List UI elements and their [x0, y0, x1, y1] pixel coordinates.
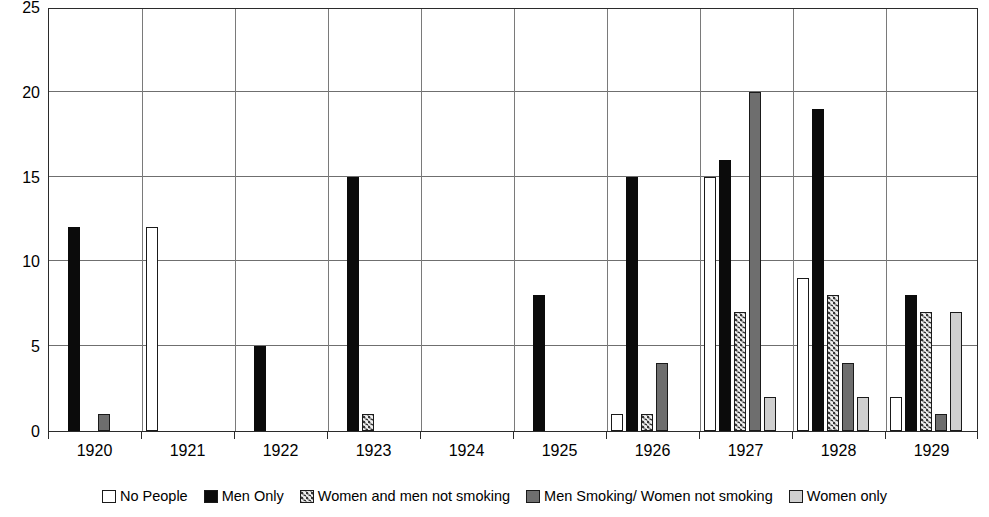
y-tick-label: 10	[2, 254, 40, 270]
x-tick	[699, 432, 700, 439]
bar	[749, 92, 761, 431]
y-tick-label: 5	[2, 339, 40, 355]
bar-group-1926	[611, 9, 704, 431]
bar-group-1924	[425, 9, 518, 431]
bar	[704, 177, 716, 431]
legend-label: No People	[120, 489, 188, 504]
legend-item[interactable]: Men Smoking/ Women not smoking	[526, 489, 773, 504]
x-tick	[420, 432, 421, 439]
legend-item[interactable]: Women only	[789, 489, 887, 504]
x-tick-label: 1926	[635, 441, 671, 461]
y-tick-label: 25	[2, 0, 40, 16]
x-tick-label: 1923	[356, 441, 392, 461]
x-tick-label: 1921	[170, 441, 206, 461]
x-tick	[513, 432, 514, 439]
x-tick-label: 1925	[542, 441, 578, 461]
bar	[719, 160, 731, 431]
bar	[812, 109, 824, 431]
bar	[146, 227, 158, 431]
y-axis: 0510152025	[0, 0, 40, 436]
x-tick	[885, 432, 886, 439]
bar	[935, 414, 947, 431]
y-tick-label: 0	[2, 424, 40, 440]
legend-item[interactable]: Women and men not smoking	[300, 489, 510, 504]
x-tick	[141, 432, 142, 439]
y-tick-label: 15	[2, 170, 40, 186]
bar	[98, 414, 110, 431]
x-tick-label: 1924	[449, 441, 485, 461]
legend-item[interactable]: No People	[102, 489, 188, 504]
bar	[347, 177, 359, 431]
bar	[950, 312, 962, 431]
x-tick-label: 1928	[821, 441, 857, 461]
x-tick	[327, 432, 328, 439]
bar	[827, 295, 839, 431]
bar	[842, 363, 854, 431]
bar-group-1929	[890, 9, 983, 431]
bar	[857, 397, 869, 431]
x-tick-label: 1920	[77, 441, 113, 461]
bar-group-1922	[239, 9, 332, 431]
legend-swatch-icon	[102, 490, 116, 503]
bar-group-1927	[704, 9, 797, 431]
bar	[890, 397, 902, 431]
bars-layer	[49, 9, 977, 431]
bar	[920, 312, 932, 431]
bar-group-1925	[518, 9, 611, 431]
plot-area	[48, 8, 978, 432]
bar-group-1921	[146, 9, 239, 431]
x-tick	[48, 432, 49, 439]
legend-label: Men Only	[222, 489, 284, 504]
bar	[611, 414, 623, 431]
x-tick-label: 1929	[914, 441, 950, 461]
legend-label: Men Smoking/ Women not smoking	[544, 489, 773, 504]
x-tick	[792, 432, 793, 439]
bar	[254, 346, 266, 431]
bar	[362, 414, 374, 431]
bar	[905, 295, 917, 431]
x-tick	[977, 432, 978, 439]
legend: No PeopleMen OnlyWomen and men not smoki…	[0, 483, 989, 509]
bar-group-1920	[53, 9, 146, 431]
bar-chart: 0510152025 19201921192219231924192519261…	[0, 0, 989, 517]
x-axis: 1920192119221923192419251926192719281929	[48, 441, 978, 465]
bar	[797, 278, 809, 431]
legend-swatch-icon	[300, 490, 314, 503]
legend-item[interactable]: Men Only	[204, 489, 284, 504]
x-tick	[234, 432, 235, 439]
x-tick-label: 1927	[728, 441, 764, 461]
bar-group-1923	[332, 9, 425, 431]
legend-swatch-icon	[789, 490, 803, 503]
legend-swatch-icon	[526, 490, 540, 503]
bar	[734, 312, 746, 431]
bar	[656, 363, 668, 431]
bar	[641, 414, 653, 431]
x-axis-ticks	[48, 432, 978, 439]
x-tick	[606, 432, 607, 439]
bar	[764, 397, 776, 431]
bar	[533, 295, 545, 431]
legend-swatch-icon	[204, 490, 218, 503]
bar	[68, 227, 80, 431]
legend-label: Women only	[807, 489, 887, 504]
bar-group-1928	[797, 9, 890, 431]
legend-label: Women and men not smoking	[318, 489, 510, 504]
x-tick-label: 1922	[263, 441, 299, 461]
y-tick-label: 20	[2, 85, 40, 101]
bar	[626, 177, 638, 431]
